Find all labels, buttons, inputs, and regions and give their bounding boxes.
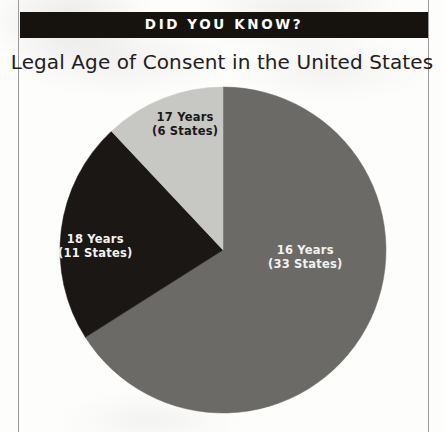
pie-chart-svg: [0, 0, 444, 432]
pie-slice-label-18-years-line1: 18 Years: [58, 232, 132, 246]
pie-chart: 16 Years (33 States) 18 Years (11 States…: [0, 0, 444, 432]
pie-slice-label-16-years: 16 Years (33 States): [268, 243, 342, 271]
pie-slice-label-17-years-line1: 17 Years: [152, 110, 218, 124]
pie-slice-label-16-years-line1: 16 Years: [268, 243, 342, 257]
pie-slice-label-18-years: 18 Years (11 States): [58, 232, 132, 260]
pie-slice-label-16-years-line2: (33 States): [268, 257, 342, 271]
pie-slice-label-18-years-line2: (11 States): [58, 246, 132, 260]
pie-slice-label-17-years-line2: (6 States): [152, 124, 218, 138]
pie-slice-label-17-years: 17 Years (6 States): [152, 110, 218, 138]
